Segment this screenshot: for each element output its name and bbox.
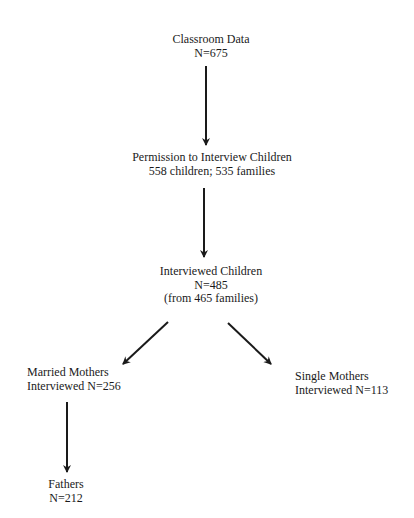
node-title: Permission to Interview Children xyxy=(132,151,292,165)
node-permission-to-interview: Permission to Interview Children 558 chi… xyxy=(132,151,292,178)
node-single-mothers: Single Mothers Interviewed N=113 xyxy=(295,370,388,397)
arrows-layer xyxy=(0,0,414,518)
node-interviewed-children: Interviewed Children N=485 (from 465 fam… xyxy=(160,265,262,306)
node-title: Interviewed Children xyxy=(160,265,262,279)
node-fathers: Fathers N=212 xyxy=(48,478,83,505)
node-count: Interviewed N=256 xyxy=(27,380,121,394)
arrow-interviewed-to-single xyxy=(228,323,271,364)
node-title: Classroom Data xyxy=(173,33,250,47)
node-title: Single Mothers xyxy=(295,370,388,384)
node-count: N=212 xyxy=(48,492,83,506)
node-count: Interviewed N=113 xyxy=(295,384,388,398)
node-note: (from 465 families) xyxy=(160,292,262,306)
node-title: Married Mothers xyxy=(27,366,121,380)
node-classroom-data: Classroom Data N=675 xyxy=(173,33,250,60)
node-count: 558 children; 535 families xyxy=(132,165,292,179)
arrow-interviewed-to-married xyxy=(123,322,168,364)
node-count: N=485 xyxy=(160,279,262,293)
node-count: N=675 xyxy=(173,47,250,61)
node-married-mothers: Married Mothers Interviewed N=256 xyxy=(27,366,121,393)
node-title: Fathers xyxy=(48,478,83,492)
